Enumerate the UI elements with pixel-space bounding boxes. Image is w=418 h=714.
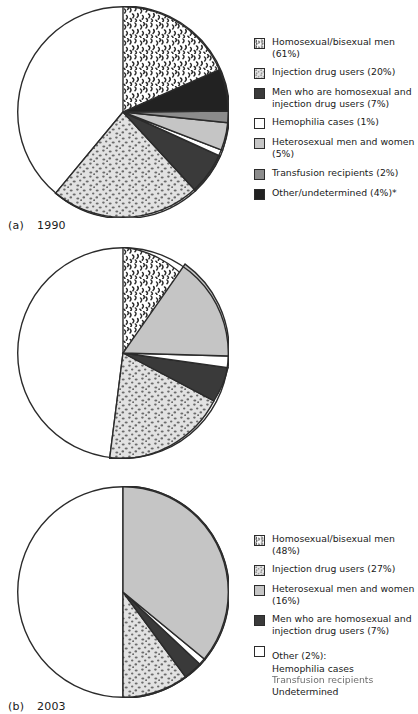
panel-caption-1990: (a)1990 <box>8 219 66 232</box>
black-swatch <box>254 189 265 200</box>
panel-year: 1990 <box>30 219 66 232</box>
white-swatch <box>254 118 265 129</box>
light-gray-swatch <box>254 138 265 149</box>
legend-item-heterosexual-men-and-women[interactable]: Heterosexual men and women (5%) <box>254 136 418 159</box>
legend-item-injection-drug-users[interactable]: Injection drug users (20%) <box>254 66 418 79</box>
pie-chart-1990 <box>17 6 229 218</box>
legend-item-transfusion-recipients[interactable]: Transfusion recipients (2%) <box>254 167 418 180</box>
legend-item-homosexual-bisexual-men[interactable]: Homosexual/bisexual men (61%) <box>254 36 418 59</box>
panel-tag: (a) <box>8 219 30 232</box>
legend-label: Injection drug users (20%) <box>272 66 395 78</box>
legend-label: Men who are homosexual and injection dru… <box>272 86 418 109</box>
legend-label: Transfusion recipients (2%) <box>272 167 398 179</box>
pie-chart-2003 <box>17 247 229 459</box>
legend-item-other-undetermined[interactable]: Other/undetermined (4%)* <box>254 187 418 200</box>
legend-label: Homosexual/bisexual men (61%) <box>272 36 418 59</box>
pie-svg-2006 <box>17 486 229 698</box>
chart-panel-2003: (b)2003 Homosexual/bisexual men (48%) In… <box>0 241 418 483</box>
pie-svg-2003 <box>17 247 229 459</box>
chart-panel-1990: (a)1990 Homosexual/bisexual men (61%) In… <box>0 0 418 245</box>
legend-label: Hemophilia cases (1%) <box>272 116 379 128</box>
legend-label: Other/undetermined (4%)* <box>272 187 397 199</box>
legend-item-hemophilia-cases[interactable]: Hemophilia cases (1%) <box>254 116 418 129</box>
dotted-pattern-swatch <box>254 68 265 79</box>
squiggle-pattern-swatch <box>254 38 265 49</box>
medium-gray-swatch <box>254 169 265 180</box>
legend-label: Heterosexual men and women (5%) <box>272 136 418 159</box>
legend-1990: Homosexual/bisexual men (61%) Injection … <box>254 36 418 200</box>
chart-panel-2006: (c)2006 Homosexual/bisexual men (50%) In… <box>0 480 418 714</box>
dark-gray-swatch <box>254 88 265 99</box>
pie-chart-2006 <box>17 486 229 698</box>
legend-item-homosexual-and-idu[interactable]: Men who are homosexual and injection dru… <box>254 86 418 109</box>
pie-svg-1990 <box>17 6 229 218</box>
